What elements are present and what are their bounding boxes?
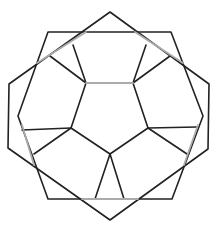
spoke-line (110, 154, 124, 199)
spoke-line (34, 128, 71, 154)
tilted-hexagon (8, 12, 209, 220)
gray-segment (37, 32, 86, 63)
spoke-line (133, 56, 170, 83)
gray-segment (184, 125, 198, 165)
spoke-line (22, 128, 71, 130)
spoke-line (148, 127, 197, 128)
center-pentagon (71, 83, 148, 154)
spoke-line (148, 128, 187, 154)
geometric-figure (0, 0, 223, 231)
spoke-line (95, 154, 110, 199)
dark-lines (8, 12, 209, 220)
